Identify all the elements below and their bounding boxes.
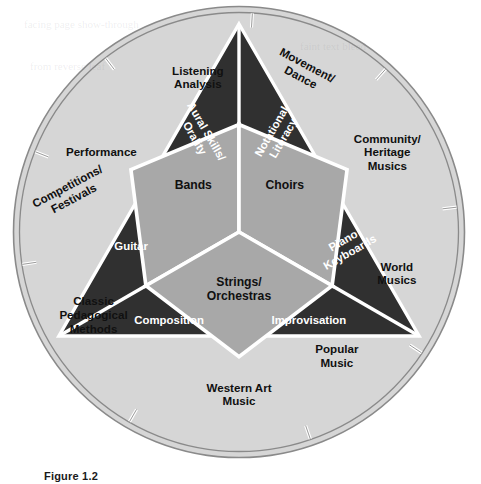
triangle-label-guitar-line-0: Guitar xyxy=(114,240,148,252)
outer-label-performance: Performance xyxy=(66,145,137,158)
music-education-wheel-diagram: PerformanceListeningAnalysisMovement/Dan… xyxy=(0,0,481,484)
core-label-bands-line-0: Bands xyxy=(175,178,212,192)
outer-label-performance-line-0: Performance xyxy=(66,145,137,158)
outer-label-classic-pedagogy-line-2: Methods xyxy=(70,322,118,335)
core-label-strings-orchestras-line-1: Orchestras xyxy=(207,289,272,303)
figure-root: PerformanceListeningAnalysisMovement/Dan… xyxy=(0,0,481,484)
outer-label-popular-music: PopularMusic xyxy=(315,342,359,369)
outer-label-listening-analysis: ListeningAnalysis xyxy=(172,64,224,91)
outer-label-world-musics-line-0: World xyxy=(381,260,414,273)
figure-caption: Figure 1.2 xyxy=(44,470,98,482)
outer-label-listening-analysis-line-0: Listening xyxy=(172,64,224,77)
outer-label-listening-analysis-line-1: Analysis xyxy=(174,77,222,90)
core-label-choirs-line-0: Choirs xyxy=(265,178,304,192)
outer-label-popular-music-line-1: Music xyxy=(320,356,353,369)
outer-label-world-musics-line-1: Musics xyxy=(377,273,416,286)
triangle-label-composition: Composition xyxy=(134,314,204,326)
triangle-label-guitar: Guitar xyxy=(114,240,148,252)
outer-label-classic-pedagogy-line-1: Pedagogical xyxy=(59,308,127,321)
outer-label-western-art-music-line-1: Music xyxy=(223,394,256,407)
outer-label-western-art-music-line-0: Western Art xyxy=(206,381,271,394)
outer-label-popular-music-line-0: Popular xyxy=(315,342,359,355)
outer-label-world-musics: WorldMusics xyxy=(377,260,416,287)
outer-label-classic-pedagogy-line-0: Classic xyxy=(73,294,114,307)
core-label-strings-orchestras-line-0: Strings/ xyxy=(216,275,262,289)
triangle-label-improvisation-line-0: Improvisation xyxy=(272,314,347,326)
outer-label-community-heritage-line-0: Community/ xyxy=(354,132,422,145)
core-label-bands: Bands xyxy=(175,178,212,192)
core-label-choirs: Choirs xyxy=(265,178,304,192)
triangle-label-improvisation: Improvisation xyxy=(272,314,347,326)
outer-label-community-heritage-line-1: Heritage xyxy=(364,145,411,158)
outer-label-community-heritage-line-2: Musics xyxy=(368,159,407,172)
triangle-label-composition-line-0: Composition xyxy=(134,314,204,326)
